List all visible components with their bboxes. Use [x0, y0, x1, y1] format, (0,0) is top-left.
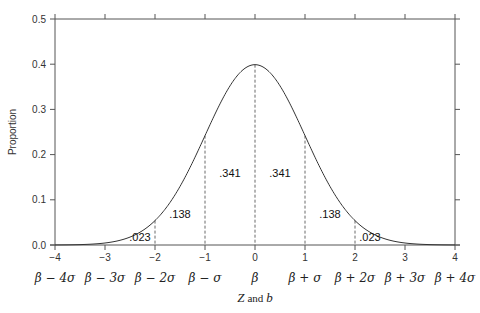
x-tick-label: 4 [452, 252, 458, 263]
x-tick-secondary-label: β + 3σ [384, 271, 426, 285]
normal-distribution-chart: 0.00.10.20.30.40.5 −4β − 4σ−3β − 3σ−2β −… [0, 0, 480, 313]
x-tick-secondary-label: β + 2σ [334, 271, 376, 285]
x-tick-secondary-label: β [251, 271, 259, 285]
x-tick-secondary-label: β − 3σ [84, 271, 126, 285]
x-tick-label: 2 [352, 252, 358, 263]
y-tick-label: 0.2 [32, 149, 46, 160]
y-tick-label: 0.5 [32, 14, 46, 25]
x-tick-label: −3 [99, 252, 111, 263]
y-tick-label: 0.0 [32, 240, 46, 251]
x-tick-secondary-label: β − 2σ [134, 271, 176, 285]
region-label: .341 [269, 167, 290, 179]
x-tick-label: 0 [252, 252, 258, 263]
region-label: .341 [219, 167, 240, 179]
x-tick-label: −2 [149, 252, 161, 263]
region-label: .138 [169, 208, 190, 220]
x-axis-title: Z and b [237, 290, 273, 305]
region-label: .023 [129, 231, 150, 243]
y-axis: 0.00.10.20.30.40.5 [32, 14, 460, 251]
region-label: .138 [319, 208, 340, 220]
x-tick-label: −1 [199, 252, 211, 263]
x-tick-secondary-label: β + 4σ [434, 271, 476, 285]
region-label: .023 [359, 231, 380, 243]
x-tick-secondary-label: β − 4σ [34, 271, 76, 285]
y-tick-label: 0.4 [32, 59, 46, 70]
y-tick-label: 0.3 [32, 104, 46, 115]
x-tick-label: −4 [49, 252, 61, 263]
x-tick-label: 1 [302, 252, 308, 263]
x-axis: −4β − 4σ−3β − 3σ−2β − 2σ−1β − σ0β1β + σ2… [34, 14, 476, 285]
x-tick-label: 3 [402, 252, 408, 263]
x-tick-secondary-label: β − σ [188, 271, 223, 285]
y-tick-label: 0.1 [32, 194, 46, 205]
y-axis-title: Proportion [7, 109, 18, 155]
x-tick-secondary-label: β + σ [288, 271, 323, 285]
